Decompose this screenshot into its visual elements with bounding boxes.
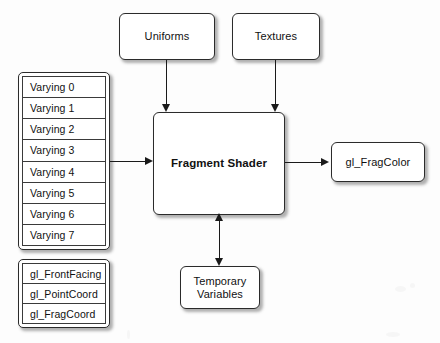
fragment-shader-label: Fragment Shader (171, 157, 267, 170)
builtin-label-gl-pointcoord: gl_PointCoord (30, 288, 98, 300)
varying-row-5[interactable]: Varying 5 (22, 182, 106, 203)
textures-label: Textures (255, 30, 297, 43)
varying-label-6: Varying 6 (30, 208, 74, 220)
varying-label-0: Varying 0 (30, 81, 74, 93)
builtin-row-gl-frontfacing[interactable]: gl_FrontFacing (22, 263, 106, 283)
uniforms-label: Uniforms (145, 30, 190, 43)
arrowhead-shader-to-temporary-variables (215, 258, 223, 266)
varying-label-1: Varying 1 (30, 102, 74, 114)
varying-row-4[interactable]: Varying 4 (22, 161, 106, 182)
connector-uniforms-to-shader (166, 60, 167, 105)
temporary-variables-label-line2: Variables (197, 288, 243, 301)
varying-label-5: Varying 5 (30, 187, 74, 199)
temporary-variables-box[interactable]: Temporary Variables (180, 266, 260, 309)
varying-label-2: Varying 2 (30, 123, 74, 135)
scan-artifact (395, 286, 406, 292)
varying-row-1[interactable]: Varying 1 (22, 97, 106, 118)
scan-artifact (386, 332, 400, 337)
arrowhead-varyings-to-shader (145, 157, 153, 165)
varying-row-0[interactable]: Varying 0 (22, 76, 106, 97)
varying-row-7[interactable]: Varying 7 (22, 224, 106, 246)
connector-textures-to-shader (275, 60, 276, 105)
fragment-shader-box[interactable]: Fragment Shader (153, 112, 285, 215)
builtin-row-gl-fragcoord[interactable]: gl_FragCoord (22, 303, 106, 324)
varying-row-3[interactable]: Varying 3 (22, 139, 106, 160)
uniforms-box[interactable]: Uniforms (119, 13, 215, 60)
scan-artifact (410, 283, 415, 288)
varying-label-3: Varying 3 (30, 144, 74, 156)
varying-label-4: Varying 4 (30, 166, 74, 178)
builtin-row-gl-pointcoord[interactable]: gl_PointCoord (22, 283, 106, 303)
temporary-variables-label-line1: Temporary (194, 275, 247, 288)
arrowhead-textures-to-shader (271, 104, 279, 112)
builtin-label-gl-fragcoord: gl_FragCoord (30, 308, 95, 320)
builtin-variables-group: gl_FrontFacing gl_PointCoord gl_FragCoor… (18, 259, 110, 328)
builtin-label-gl-frontfacing: gl_FrontFacing (30, 268, 101, 280)
arrowhead-shader-to-fragcolor (321, 158, 329, 166)
diagram-canvas: Uniforms Textures Varying 0 Varying 1 Va… (0, 0, 440, 343)
textures-box[interactable]: Textures (232, 13, 320, 60)
connector-shader-to-fragcolor (285, 162, 323, 163)
connector-shader-to-temporary-variables (219, 218, 220, 262)
varying-row-6[interactable]: Varying 6 (22, 203, 106, 224)
varyings-group: Varying 0 Varying 1 Varying 2 Varying 3 … (18, 72, 110, 250)
arrowhead-temporary-variables-to-shader (215, 213, 223, 221)
gl-fragcolor-label: gl_FragColor (346, 156, 411, 169)
varying-label-7: Varying 7 (30, 229, 74, 241)
arrowhead-uniforms-to-shader (162, 104, 170, 112)
scan-artifact (127, 330, 130, 339)
connector-varyings-to-shader (110, 161, 147, 162)
varying-row-2[interactable]: Varying 2 (22, 118, 106, 139)
gl-fragcolor-box[interactable]: gl_FragColor (331, 142, 425, 182)
